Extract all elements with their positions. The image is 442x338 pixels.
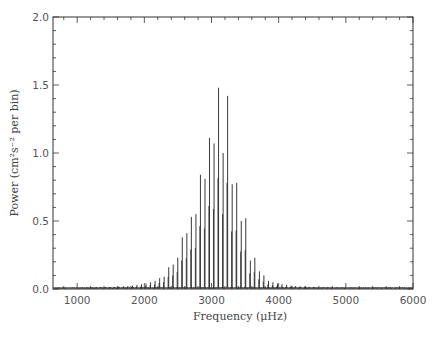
y-tick-label: 2.0 xyxy=(32,11,49,23)
x-tick-label: 6000 xyxy=(400,294,427,306)
spectrum-series xyxy=(53,88,413,289)
y-axis-title: Power (cm²s⁻² per bin) xyxy=(8,89,21,216)
y-tick-label: 0.5 xyxy=(32,215,49,227)
plot-frame xyxy=(53,17,413,289)
y-tick-label: 1.5 xyxy=(32,79,49,91)
y-axis-tick-labels: 0.00.51.01.52.0 xyxy=(32,11,49,295)
x-tick-label: 4000 xyxy=(265,294,292,306)
x-tick-label: 1000 xyxy=(64,294,91,306)
x-axis-ticks xyxy=(64,17,413,289)
x-tick-label: 5000 xyxy=(332,294,359,306)
y-axis-ticks xyxy=(53,17,413,289)
x-tick-label: 3000 xyxy=(198,294,225,306)
power-spectrum-chart: 100020003000400050006000 0.00.51.01.52.0… xyxy=(0,0,442,338)
x-axis-tick-labels: 100020003000400050006000 xyxy=(64,294,427,306)
x-axis-title: Frequency (μHz) xyxy=(193,310,287,323)
y-tick-label: 1.0 xyxy=(32,147,49,159)
spectrum-baseline xyxy=(53,288,413,289)
y-tick-label: 0.0 xyxy=(32,283,49,295)
x-tick-label: 2000 xyxy=(131,294,158,306)
